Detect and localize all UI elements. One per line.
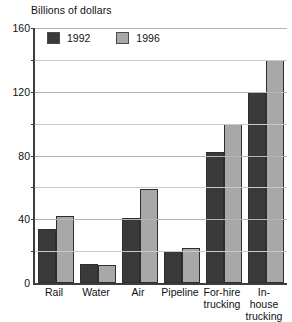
y-tick-label: 40 bbox=[18, 213, 30, 225]
x-tick-label: Water bbox=[82, 286, 110, 298]
y-tick-mark bbox=[31, 124, 35, 125]
y-tick-mark bbox=[31, 60, 35, 61]
gridline-major bbox=[35, 28, 287, 29]
y-tick-label: 160 bbox=[12, 22, 30, 34]
y-tick-mark bbox=[31, 219, 35, 220]
legend-entry: 1996 bbox=[116, 32, 159, 44]
gridline-major bbox=[35, 219, 287, 220]
bar-chart: Billions of dollars 04080120160 19921996… bbox=[0, 0, 292, 322]
legend-entry: 1992 bbox=[47, 32, 90, 44]
x-tick-label: Air bbox=[132, 286, 145, 298]
gridline-minor bbox=[35, 187, 287, 188]
y-axis-labels: 04080120160 bbox=[0, 28, 30, 283]
y-tick-mark bbox=[31, 92, 35, 93]
y-tick-mark bbox=[31, 187, 35, 188]
y-tick-mark bbox=[31, 28, 35, 29]
x-tick-label: Pipeline bbox=[161, 286, 198, 298]
bar bbox=[38, 229, 56, 283]
bar bbox=[140, 189, 158, 283]
legend-swatch bbox=[116, 32, 129, 44]
bar bbox=[56, 216, 74, 283]
gridline-minor bbox=[35, 124, 287, 125]
bar bbox=[80, 264, 98, 283]
gridline-major bbox=[35, 156, 287, 157]
bar bbox=[98, 265, 116, 283]
x-tick-label: For-hire trucking bbox=[204, 286, 241, 310]
y-tick-label: 80 bbox=[18, 150, 30, 162]
bar bbox=[206, 152, 224, 283]
y-tick-mark bbox=[31, 156, 35, 157]
y-tick-label: 120 bbox=[12, 86, 30, 98]
legend: 19921996 bbox=[47, 32, 160, 44]
gridline-major bbox=[35, 92, 287, 93]
legend-label: 1996 bbox=[136, 33, 159, 44]
gridline-minor bbox=[35, 60, 287, 61]
chart-title: Billions of dollars bbox=[31, 4, 112, 16]
bar bbox=[224, 124, 242, 283]
legend-swatch bbox=[47, 32, 60, 44]
x-tick-label: Rail bbox=[45, 286, 63, 298]
plot-area bbox=[33, 28, 287, 285]
x-tick-label: In-house trucking bbox=[246, 286, 283, 322]
x-axis-labels: RailWaterAirPipelineFor-hire truckingIn-… bbox=[33, 286, 285, 320]
bar bbox=[266, 60, 284, 283]
gridline-minor bbox=[35, 251, 287, 252]
bar bbox=[182, 248, 200, 283]
legend-label: 1992 bbox=[67, 33, 90, 44]
y-tick-mark bbox=[31, 251, 35, 252]
bar bbox=[164, 251, 182, 283]
y-tick-label: 0 bbox=[24, 277, 30, 289]
